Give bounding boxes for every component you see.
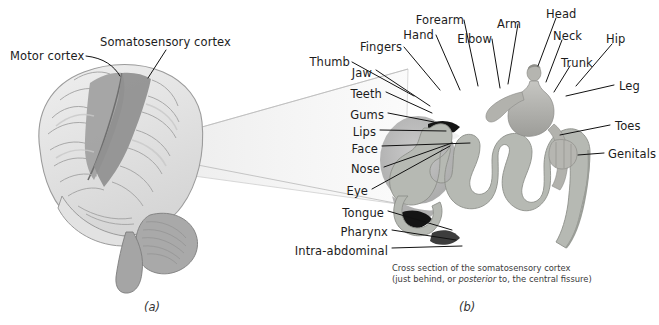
label-leg: Leg — [619, 80, 640, 92]
label-eye: Eye — [347, 185, 368, 197]
cortex-cross-section — [380, 64, 590, 248]
label-nose: Nose — [351, 163, 380, 175]
label-trunk: Trunk — [561, 57, 593, 69]
panel-letter-b: (b) — [459, 300, 475, 314]
cross-section-caption: Cross section of the somatosensory corte… — [392, 263, 592, 284]
label-gums: Gums — [350, 109, 384, 121]
caption-line-2-post: to, the central fissure) — [496, 274, 592, 284]
label-hand: Hand — [403, 29, 434, 41]
label-genitals: Genitals — [608, 148, 656, 160]
label-teeth: Teeth — [350, 88, 382, 100]
caption-line-2-pre: (just behind, or — [392, 274, 459, 284]
label-somatosensory-cortex: Somatosensory cortex — [100, 36, 231, 48]
label-intra-abdominal: Intra-abdominal — [295, 245, 388, 257]
label-face: Face — [352, 143, 378, 155]
leader-forearm — [464, 20, 478, 86]
label-arm: Arm — [497, 18, 521, 30]
label-motor-cortex: Motor cortex — [10, 50, 84, 62]
label-forearm: Forearm — [416, 14, 464, 26]
label-head: Head — [546, 8, 576, 20]
caption-line-1: Cross section of the somatosensory corte… — [392, 263, 592, 274]
label-thumb: Thumb — [309, 56, 350, 68]
label-lips: Lips — [353, 126, 376, 138]
label-tongue: Tongue — [342, 207, 384, 219]
brain-illustration — [39, 65, 203, 294]
leader-arm — [508, 24, 518, 84]
label-hip: Hip — [606, 33, 625, 45]
panel-letter-a: (a) — [144, 300, 160, 314]
leader-leg — [566, 85, 614, 96]
leader-elbow — [492, 39, 500, 88]
label-neck: Neck — [553, 30, 582, 42]
label-toes: Toes — [615, 120, 641, 132]
label-elbow: Elbow — [457, 33, 492, 45]
leader-fingers — [404, 47, 440, 90]
leader-neck — [546, 40, 562, 82]
leader-intra-abdominal — [392, 246, 462, 248]
label-pharynx: Pharynx — [340, 226, 388, 238]
caption-line-2: (just behind, or posterior to, the centr… — [392, 274, 592, 285]
caption-italic-posterior: posterior — [459, 274, 497, 284]
label-jaw: Jaw — [352, 67, 372, 79]
figure-canvas: Somatosensory cortex Motor cortex Jaw Te… — [0, 0, 659, 325]
label-fingers: Fingers — [360, 41, 402, 53]
